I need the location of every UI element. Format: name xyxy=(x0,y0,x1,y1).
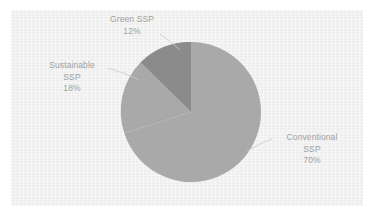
pie-chart-screenshot: Green SSP 12% Sustainable SSP 18% Conven… xyxy=(0,0,377,219)
slice-label-conventional-name-line1: Conventional xyxy=(272,132,352,144)
slice-label-conventional-name-line2: SSP xyxy=(272,144,352,156)
slice-label-sustainable-value: 18% xyxy=(36,83,108,95)
slice-label-sustainable-name-line1: Sustainable xyxy=(36,60,108,72)
slice-label-green-name: Green SSP xyxy=(94,14,170,26)
slice-label-sustainable: Sustainable SSP 18% xyxy=(36,60,108,95)
pie-chart-graphic xyxy=(0,0,377,219)
slice-label-conventional: Conventional SSP 70% xyxy=(272,132,352,167)
slice-label-sustainable-name-line2: SSP xyxy=(36,72,108,84)
slice-label-conventional-value: 70% xyxy=(272,155,352,167)
slice-label-green-value: 12% xyxy=(94,26,170,38)
slice-label-green: Green SSP 12% xyxy=(94,14,170,37)
